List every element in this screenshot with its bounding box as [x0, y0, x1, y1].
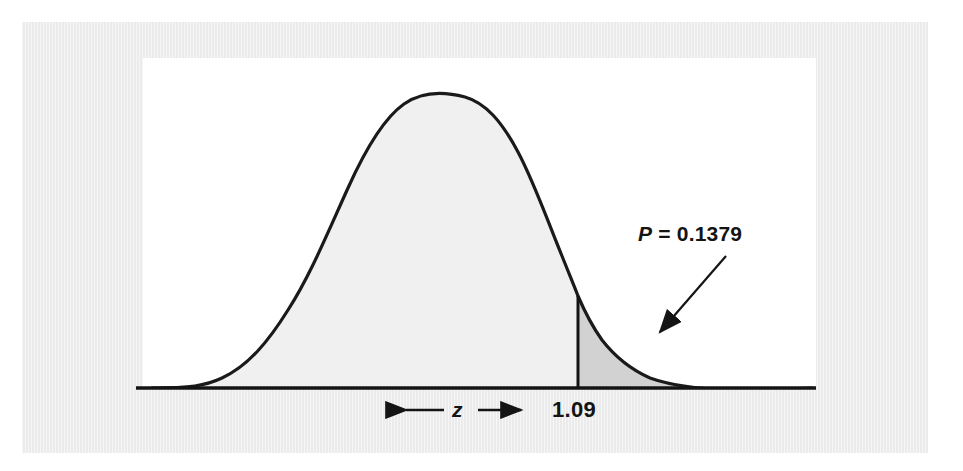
z-critical-value-label: 1.09 [552, 397, 596, 423]
p-value: 0.1379 [677, 222, 742, 245]
normal-curve-plot [0, 0, 963, 471]
tail-probability-label: P = 0.1379 [638, 222, 742, 246]
normal-curve-figure: P = 0.1379 z 1.09 [0, 0, 963, 471]
p-equals-sign: = [652, 222, 677, 245]
p-label-pointer-arrow [660, 256, 726, 332]
curve-tail-fill [578, 296, 812, 390]
p-symbol: P [638, 222, 652, 245]
curve-body-fill [158, 93, 578, 388]
z-axis-symbol-label: z [452, 398, 463, 422]
